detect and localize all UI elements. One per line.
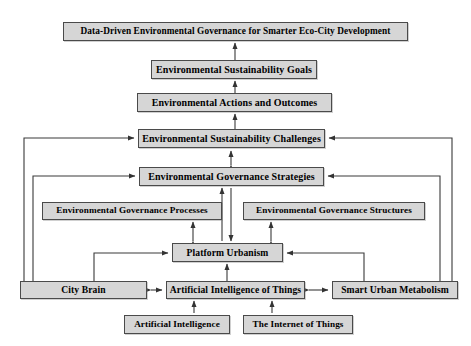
node-environmental-governance-structures[interactable]: Environmental Governance Structures (243, 202, 425, 220)
node-artificial-intelligence[interactable]: Artificial Intelligence (124, 315, 230, 334)
node-environmental-actions-and-outcomes[interactable]: Environmental Actions and Outcomes (137, 93, 332, 112)
node-label: Environmental Governance Structures (256, 206, 412, 215)
node-label: Artificial Intelligence of Things (170, 285, 301, 295)
edge-citybrain-to-platform (94, 253, 168, 281)
edge-metabolism-to-platform (287, 253, 364, 281)
node-data-driven-environmental-governance[interactable]: Data-Driven Environmental Governance for… (63, 22, 408, 41)
node-label: Data-Driven Environmental Governance for… (80, 27, 390, 36)
node-label: Environmental Sustainability Challenges (142, 134, 321, 144)
node-smart-urban-metabolism[interactable]: Smart Urban Metabolism (332, 281, 458, 299)
node-label: Environmental Actions and Outcomes (152, 98, 318, 108)
edge-citybrain-to-strategies (33, 176, 135, 281)
node-environmental-governance-processes[interactable]: Environmental Governance Processes (42, 202, 222, 220)
node-label: Artificial Intelligence (134, 320, 220, 329)
edge-metabolism-to-strategies (328, 176, 440, 281)
node-label: Smart Urban Metabolism (341, 285, 449, 295)
diagram-canvas: Data-Driven Environmental Governance for… (0, 0, 471, 346)
node-city-brain[interactable]: City Brain (20, 281, 147, 299)
node-label: The Internet of Things (252, 320, 343, 329)
node-label: City Brain (61, 285, 105, 295)
node-label: Platform Urbanism (187, 248, 269, 258)
node-environmental-sustainability-goals[interactable]: Environmental Sustainability Goals (151, 60, 317, 79)
node-the-internet-of-things[interactable]: The Internet of Things (243, 315, 353, 334)
node-platform-urbanism[interactable]: Platform Urbanism (172, 243, 283, 262)
node-label: Environmental Sustainability Goals (156, 65, 312, 75)
node-label: Environmental Governance Processes (56, 206, 208, 215)
node-environmental-sustainability-challenges[interactable]: Environmental Sustainability Challenges (138, 129, 325, 148)
node-label: Environmental Governance Strategies (148, 172, 315, 182)
node-artificial-intelligence-of-things[interactable]: Artificial Intelligence of Things (166, 281, 305, 299)
node-environmental-governance-strategies[interactable]: Environmental Governance Strategies (139, 167, 324, 186)
